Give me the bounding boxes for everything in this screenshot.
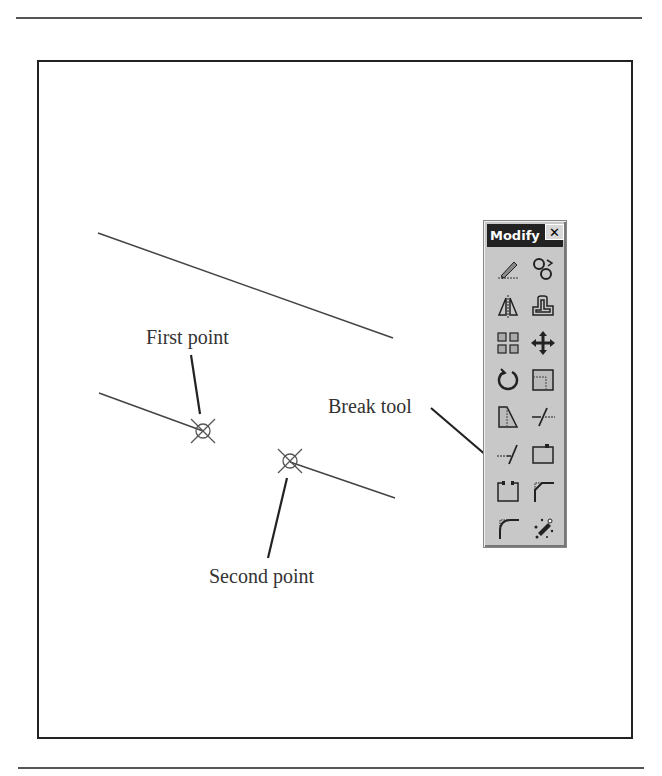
- toolbar-title: Modify: [490, 228, 540, 243]
- offset-button[interactable]: [527, 290, 559, 322]
- erase-icon: [495, 256, 521, 282]
- trim-button[interactable]: [527, 401, 559, 433]
- break-button[interactable]: [492, 475, 524, 507]
- leader-second-point: [268, 478, 287, 558]
- chamfer-icon: [530, 478, 556, 504]
- copy-icon: [530, 256, 556, 282]
- break-icon: [495, 478, 521, 504]
- erase-button[interactable]: [492, 253, 524, 285]
- rotate-button[interactable]: [492, 364, 524, 396]
- mirror-icon: [495, 293, 521, 319]
- cad-line-lower-left: [99, 393, 203, 431]
- toolbar-close-button[interactable]: ✕: [545, 224, 564, 240]
- rotate-icon: [495, 367, 521, 393]
- label-break-tool: Break tool: [328, 396, 412, 416]
- chamfer-button[interactable]: [527, 475, 559, 507]
- fillet-icon: [495, 515, 521, 541]
- first-point-marker-icon: [191, 419, 215, 443]
- trim-icon: [530, 404, 556, 430]
- array-button[interactable]: [492, 327, 524, 359]
- extend-icon: [495, 441, 521, 467]
- label-first-point: First point: [146, 327, 229, 347]
- copy-button[interactable]: [527, 253, 559, 285]
- scale-button[interactable]: [527, 364, 559, 396]
- array-icon: [495, 330, 521, 356]
- stretch-button[interactable]: [492, 401, 524, 433]
- move-icon: [530, 330, 556, 356]
- move-button[interactable]: [527, 327, 559, 359]
- explode-button[interactable]: [527, 512, 559, 544]
- cad-line-upper: [98, 233, 393, 338]
- fillet-button[interactable]: [492, 512, 524, 544]
- toolbar-buttons: [492, 253, 562, 549]
- mirror-button[interactable]: [492, 290, 524, 322]
- second-point-marker-icon: [278, 449, 302, 473]
- offset-icon: [530, 293, 556, 319]
- stretch-icon: [495, 404, 521, 430]
- modify-toolbar[interactable]: Modify ✕: [483, 220, 567, 548]
- label-second-point: Second point: [209, 566, 314, 586]
- extend-button[interactable]: [492, 438, 524, 470]
- cad-line-lower-right: [290, 462, 395, 498]
- scale-icon: [530, 367, 556, 393]
- leader-first-point: [191, 355, 200, 414]
- close-icon: ✕: [549, 225, 560, 240]
- break-at-point-button[interactable]: [527, 438, 559, 470]
- break-at-point-icon: [530, 441, 556, 467]
- explode-icon: [530, 515, 556, 541]
